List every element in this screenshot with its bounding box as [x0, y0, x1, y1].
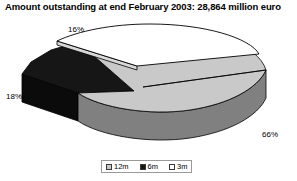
legend-label-3m: 3m: [177, 163, 187, 171]
legend-swatch-6m: [140, 164, 146, 170]
pie-chart-figure: Amount outstanding at end February 2003:…: [0, 0, 297, 181]
pie-graphic: [0, 12, 297, 152]
legend-item-3m[interactable]: 3m: [169, 163, 187, 171]
legend-swatch-12m: [106, 164, 112, 170]
legend-item-12m[interactable]: 12m: [106, 163, 129, 171]
pie-label-3m: 16%: [68, 25, 84, 34]
legend-swatch-3m: [169, 164, 175, 170]
pie-label-12m: 66%: [262, 130, 278, 139]
legend-item-6m[interactable]: 6m: [140, 163, 158, 171]
legend-label-6m: 6m: [148, 163, 158, 171]
legend-label-12m: 12m: [114, 163, 129, 171]
chart-legend: 12m 6m 3m: [101, 160, 192, 173]
chart-title: Amount outstanding at end February 2003:…: [5, 1, 281, 12]
pie-label-6m: 18%: [6, 92, 22, 101]
pie-plot-area: 16% 18% 66%: [0, 12, 297, 152]
